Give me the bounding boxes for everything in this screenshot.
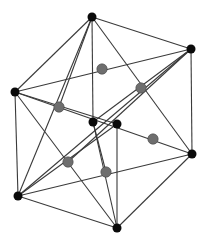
polytope-diagram: [0, 0, 206, 241]
node-T: [88, 13, 97, 22]
node-C1: [89, 118, 98, 127]
node-RB: [188, 150, 197, 159]
node-G6: [101, 167, 111, 177]
node-G4: [148, 134, 158, 144]
node-B: [113, 224, 122, 233]
edge-L-RB: [15, 92, 192, 154]
node-G3: [54, 102, 64, 112]
node-C2: [113, 120, 122, 129]
node-BL: [14, 192, 23, 201]
node-L: [11, 88, 20, 97]
edge-BL-B: [18, 196, 117, 228]
edge-layer: [15, 17, 192, 228]
node-G5: [63, 157, 73, 167]
edge-T-C1: [92, 17, 93, 122]
edge-T-L: [15, 17, 92, 92]
node-RT: [187, 45, 196, 54]
node-G1: [97, 64, 107, 74]
edge-L-BL: [15, 92, 18, 196]
edge-T-RT: [92, 17, 191, 49]
node-G2: [136, 83, 146, 93]
edge-RT-RB: [191, 49, 192, 154]
edge-T-G3: [59, 17, 92, 107]
edge-RT-G5: [68, 49, 191, 162]
edge-B-RB: [117, 154, 192, 228]
